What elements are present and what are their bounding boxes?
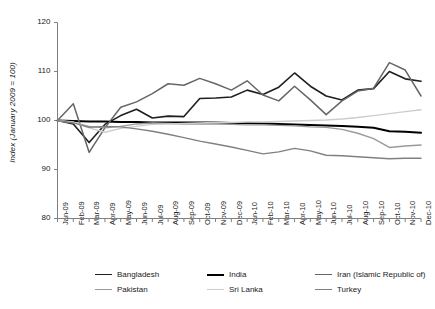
legend-swatch xyxy=(95,274,112,275)
legend-item[interactable]: Pakistan xyxy=(95,283,207,296)
series-line-turkey xyxy=(58,121,422,159)
legend-item[interactable]: Bangladesh xyxy=(95,268,207,281)
legend-swatch xyxy=(207,289,224,290)
chart-legend: BangladeshIndiaIran (Islamic Republic of… xyxy=(95,268,425,296)
series-line-bangladesh xyxy=(58,72,422,143)
legend-label: India xyxy=(229,270,246,279)
legend-item[interactable]: Iran (Islamic Republic of) xyxy=(315,268,435,281)
legend-label: Sri Lanka xyxy=(229,285,263,294)
legend-label: Bangladesh xyxy=(117,270,159,279)
legend-swatch xyxy=(315,274,332,275)
series-group xyxy=(58,63,422,159)
series-line-pakistan xyxy=(58,121,422,148)
legend-label: Pakistan xyxy=(117,285,148,294)
legend-label: Iran (Islamic Republic of) xyxy=(337,270,425,279)
series-line-iran-islamic-republic-of xyxy=(58,63,422,153)
legend-item[interactable]: India xyxy=(207,268,315,281)
legend-label: Turkey xyxy=(337,285,361,294)
legend-swatch xyxy=(95,289,112,290)
legend-swatch xyxy=(207,274,224,276)
legend-item[interactable]: Sri Lanka xyxy=(207,283,315,296)
legend-item[interactable]: Turkey xyxy=(315,283,435,296)
legend-swatch xyxy=(315,289,332,290)
